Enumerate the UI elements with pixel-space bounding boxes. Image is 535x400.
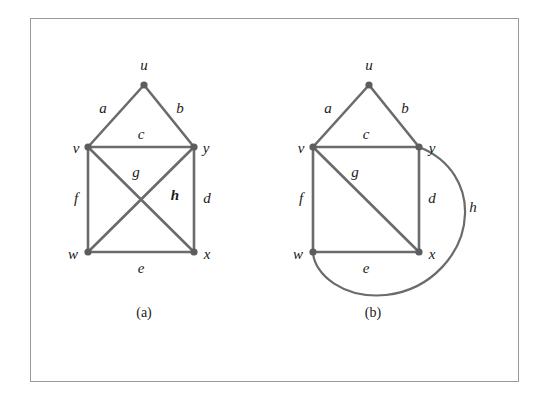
panel-b-edge-label-e: e — [363, 260, 370, 276]
panel-a-edge-label-b: b — [176, 100, 184, 116]
panel-b-caption: (b) — [337, 305, 409, 321]
panel-a-vertex-label-v: v — [73, 140, 80, 156]
panel-b-vertex-u — [365, 81, 372, 88]
panel-a-edge-label-h: h — [171, 187, 179, 203]
panel-b-edge-label-d: d — [428, 190, 436, 206]
panel-a-vertex-w — [84, 248, 91, 255]
panel-b-edge-a — [313, 85, 369, 147]
panel-b-edge-label-a: a — [324, 100, 332, 116]
panel-a-vertex-label-w: w — [68, 246, 78, 262]
panel-a-edge-label-g: g — [132, 164, 140, 180]
panel-b-vertex-v — [309, 143, 316, 150]
panel-b-vertex-w — [309, 248, 316, 255]
panel-a-vertex-label-u: u — [140, 57, 148, 73]
panel-a-edge-label-c: c — [138, 126, 145, 142]
panel-a-edge-b — [144, 85, 194, 147]
panel-b-vertex-x — [415, 248, 422, 255]
panel-b-vertex-label-w: w — [293, 246, 303, 262]
panel-a-caption: (a) — [108, 305, 180, 321]
panel-a-vertex-label-y: y — [201, 140, 210, 156]
panel-b-vertex-label-x: x — [428, 246, 436, 262]
panel-b-edge-label-g: g — [351, 164, 359, 180]
panel-b-vertex-label-y: y — [427, 140, 436, 156]
panel-b-graph: u v y w x a b c g f d e h — [293, 57, 477, 295]
panel-a-edge-a — [88, 85, 144, 147]
panel-a-vertex-u — [140, 81, 147, 88]
panel-b-edge-label-b: b — [401, 100, 409, 116]
panel-b-vertex-y — [415, 143, 422, 150]
panel-a-vertex-label-x: x — [203, 246, 211, 262]
panel-a-edge-label-f: f — [74, 190, 80, 206]
panel-a-edge-label-d: d — [203, 190, 211, 206]
figure-root: u v y w x a b c g h f d e — [0, 0, 535, 400]
panel-b-edge-b — [369, 85, 419, 147]
panel-a-edge-label-a: a — [99, 100, 107, 116]
panel-b-edge-g — [313, 147, 419, 252]
panel-a-graph: u v y w x a b c g h f d e — [68, 57, 211, 276]
panel-a-vertex-v — [84, 143, 91, 150]
panel-b-edge-label-c: c — [363, 126, 370, 142]
panel-b-edge-label-f: f — [299, 190, 305, 206]
panel-b-vertex-label-v: v — [298, 140, 305, 156]
panel-a-edge-label-e: e — [138, 260, 145, 276]
panel-a-vertex-x — [190, 248, 197, 255]
graph-figure-canvas: u v y w x a b c g h f d e — [0, 0, 535, 400]
panel-b-edge-label-h: h — [469, 199, 477, 215]
panel-a-vertex-y — [190, 143, 197, 150]
panel-b-vertex-label-u: u — [365, 57, 373, 73]
